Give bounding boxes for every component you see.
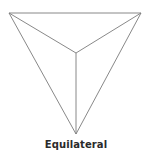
figure-caption: Equilateral (0, 138, 142, 152)
outer-triangle (9, 13, 141, 134)
edge-top-right-to-center (76, 13, 141, 53)
equilateral-triangle-figure: Equilateral (0, 0, 142, 153)
edge-top-left-to-center (9, 13, 76, 53)
triangle-diagram (0, 0, 142, 153)
